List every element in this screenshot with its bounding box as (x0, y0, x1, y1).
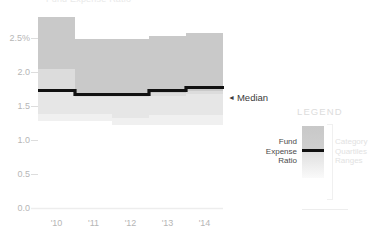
legend-bracket (327, 124, 333, 200)
y-tick-label: 1.5 (17, 102, 30, 111)
median-annotation-label: Median (237, 92, 268, 103)
left-arrow-icon: ◄ (228, 92, 235, 103)
legend-category-line-1: Category (335, 137, 377, 147)
legend-swatch (302, 126, 324, 178)
legend-fund-expense-ratio-label: Fund Expense Ratio (250, 137, 297, 166)
median-annotation: ◄Median (228, 92, 268, 104)
legend-fund-line-1: Fund (250, 137, 297, 147)
x-tick-label: '11 (75, 219, 112, 228)
legend: LEGEND Fund Expense Ratio Category Quart… (250, 106, 377, 216)
y-tick-label: 2.0 (17, 68, 30, 77)
legend-fund-line-3: Ratio (250, 156, 297, 166)
x-tick-label: '13 (149, 219, 186, 228)
y-tick-marks (31, 39, 38, 175)
legend-fund-line-2: Expense (250, 147, 297, 157)
y-tick-label: 2.5% (9, 34, 30, 43)
legend-title: LEGEND (297, 106, 343, 117)
x-tick-label: '14 (186, 219, 223, 228)
x-tick-label: '10 (38, 219, 75, 228)
x-tick-label: '12 (112, 219, 149, 228)
legend-category-quartiles-label: Category Quartiles Ranges (335, 137, 377, 166)
chart-root: Fund Expense Ratio (0, 0, 377, 243)
y-tick-label: 0.5 (17, 170, 30, 179)
legend-underline (302, 209, 348, 210)
y-axis-labels: 2.5% 2.0 1.5 1.0 0.5 0.0 (0, 0, 30, 243)
legend-category-line-3: Ranges (335, 156, 377, 166)
y-tick-label: 1.0 (17, 136, 30, 145)
legend-category-line-2: Quartiles (335, 147, 377, 157)
y-tick-label: 0.0 (17, 204, 30, 213)
legend-median-line-swatch (302, 149, 324, 152)
